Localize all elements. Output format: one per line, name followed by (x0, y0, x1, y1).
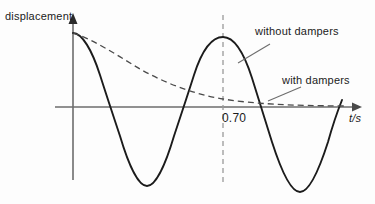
displacement-time-diagram: displacement t/s 0.70 without dampers wi… (0, 0, 375, 204)
y-axis (69, 13, 78, 180)
series-label-with-dampers: with dampers (282, 74, 350, 86)
y-axis-label: displacement (5, 10, 72, 22)
curve-without-dampers (73, 33, 342, 192)
x-axis (55, 103, 362, 112)
callout-line-with-dampers (268, 87, 301, 101)
tick-label-0-70: 0.70 (222, 111, 246, 125)
x-axis-label: t/s (349, 112, 361, 124)
x-axis-arrow-icon (352, 103, 362, 112)
series-label-without-dampers: without dampers (255, 25, 339, 37)
